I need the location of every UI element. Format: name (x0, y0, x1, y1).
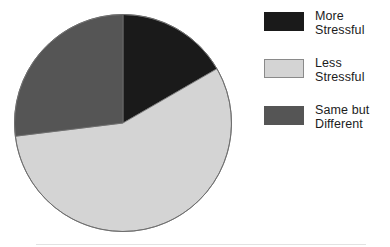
legend-label-same-but-different: Same but Different (315, 104, 369, 131)
legend-swatch-less-stressful (264, 59, 304, 78)
pie-slice-group (15, 15, 232, 232)
pie-chart-figure: More Stressful Less Stressful Same but D… (0, 0, 390, 247)
pie-chart-plot-area (12, 12, 234, 234)
legend-item-same-but-different[interactable]: Same but Different (264, 104, 386, 131)
legend-item-more-stressful[interactable]: More Stressful (264, 10, 386, 37)
legend-swatch-more-stressful (264, 12, 304, 31)
pie-chart-svg (12, 12, 234, 234)
pie-slice-same-but-different[interactable] (15, 15, 123, 137)
legend-label-less-stressful: Less Stressful (315, 57, 365, 84)
legend-item-less-stressful[interactable]: Less Stressful (264, 57, 386, 84)
footer-divider (36, 244, 366, 245)
legend-swatch-same-but-different (264, 106, 304, 125)
legend-label-more-stressful: More Stressful (315, 10, 365, 37)
chart-legend: More Stressful Less Stressful Same but D… (264, 10, 386, 131)
